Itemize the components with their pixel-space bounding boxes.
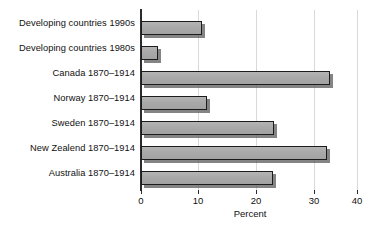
- x-tick-mark-30: [314, 190, 315, 194]
- x-tick-label-20: 20: [251, 195, 262, 206]
- bar-sweden-1870-1914: [141, 121, 274, 135]
- bar-new-zealend-1870-1914: [141, 146, 327, 160]
- x-tick-mark-20: [256, 190, 257, 194]
- bar-developing-countries-1980s: [141, 46, 158, 60]
- bar-norway-1870-1914: [141, 96, 207, 110]
- gridline-30: [314, 10, 315, 190]
- bar-australia-1870-1914: [141, 171, 273, 185]
- bar-chart: Developing countries 1990s Developing co…: [0, 0, 389, 230]
- category-label-norway: Norway 1870–1914: [0, 93, 135, 103]
- bar-canada-1870-1914: [141, 71, 330, 85]
- x-tick-label-30: 30: [309, 195, 320, 206]
- x-tick-mark-10: [198, 190, 199, 194]
- x-tick-label-40: 40: [352, 195, 363, 206]
- x-tick-mark-0: [141, 190, 142, 194]
- category-axis-labels: Developing countries 1990s Developing co…: [0, 0, 138, 190]
- plot-area: [141, 10, 359, 190]
- gridline-40: [357, 10, 358, 190]
- category-label-developing-1990s: Developing countries 1990s: [0, 18, 135, 28]
- category-label-new-zealand: New Zealend 1870–1914: [0, 143, 135, 153]
- x-tick-label-0: 0: [138, 195, 143, 206]
- category-label-canada: Canada 1870–1914: [0, 68, 135, 78]
- x-tick-label-10: 10: [193, 195, 204, 206]
- category-label-australia: Australia 1870–1914: [0, 168, 135, 178]
- x-axis-title: Percent: [141, 208, 359, 219]
- category-label-developing-1980s: Developing countries 1980s: [0, 43, 135, 53]
- bar-developing-countries-1990s: [141, 21, 202, 35]
- x-axis: 0 10 20 30 40 Percent: [141, 190, 359, 230]
- category-label-sweden: Sweden 1870–1914: [0, 118, 135, 128]
- x-tick-mark-40: [357, 190, 358, 194]
- gridline-20: [256, 10, 257, 190]
